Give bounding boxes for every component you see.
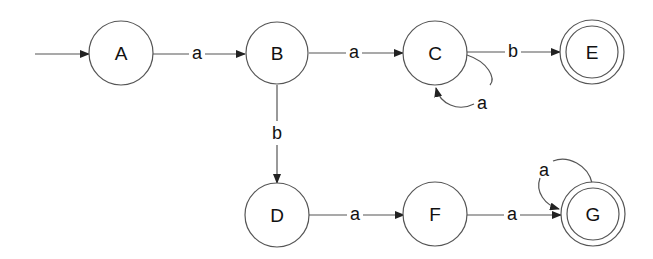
state-a: A — [89, 21, 153, 85]
state-label: B — [271, 43, 284, 64]
transition-label: a — [349, 42, 360, 62]
state-d: D — [245, 183, 309, 247]
state-c: C — [403, 21, 467, 85]
transition-label: b — [272, 123, 282, 143]
state-f: F — [403, 182, 467, 246]
transition-b-to-d: b — [268, 85, 286, 183]
transition-label: a — [539, 160, 550, 180]
transition-label: a — [192, 43, 203, 63]
state-g-accepting: G — [561, 182, 625, 246]
state-label: G — [586, 204, 601, 225]
state-label: C — [428, 43, 442, 64]
state-label: F — [429, 204, 441, 225]
transition-f-to-g: a — [467, 204, 561, 226]
transition-c-to-e: b — [467, 41, 560, 63]
state-label: D — [270, 205, 284, 226]
transition-label: b — [508, 41, 518, 61]
transition-a-to-b: a — [153, 43, 245, 65]
state-label: A — [115, 43, 128, 64]
transition-label: a — [350, 204, 361, 224]
transition-label: a — [507, 204, 518, 224]
state-label: E — [586, 42, 599, 63]
transition-b-to-c: a — [309, 42, 403, 64]
state-b: B — [246, 22, 308, 84]
transition-d-to-f: a — [309, 204, 404, 226]
transition-label: a — [477, 93, 488, 113]
state-e-accepting: E — [560, 20, 624, 84]
automaton-diagram: a a a b b a a a — [0, 0, 653, 259]
